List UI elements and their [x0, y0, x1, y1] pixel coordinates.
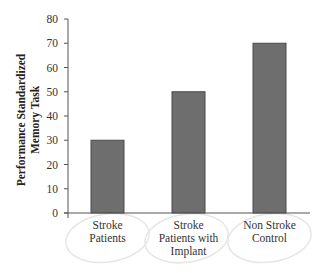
bar-0: [91, 140, 124, 213]
x-category-label: Patients with: [159, 232, 219, 244]
y-tick-label: 50: [47, 86, 59, 98]
x-category-label: Stroke: [92, 219, 122, 231]
y-tick-label: 80: [47, 13, 59, 25]
y-axis-ticks: 01020304050607080: [47, 13, 69, 219]
x-category-label: Stroke: [173, 219, 203, 231]
x-axis-category-labels: StrokePatientsStrokePatients withImplant…: [89, 219, 296, 258]
x-category-label: Non Stroke: [243, 219, 296, 231]
y-tick-label: 20: [47, 159, 59, 171]
y-tick-label: 60: [47, 62, 59, 74]
y-tick-label: 10: [47, 183, 59, 195]
bar-chart: 01020304050607080 StrokePatientsStrokePa…: [0, 0, 336, 273]
bar-1: [172, 92, 205, 213]
y-tick-label: 70: [47, 37, 59, 49]
y-tick-label: 40: [47, 110, 59, 122]
bars: [91, 43, 286, 213]
x-category-label: Implant: [171, 245, 208, 258]
y-tick-label: 30: [47, 134, 59, 146]
x-category-label: Control: [252, 232, 287, 244]
bar-2: [253, 43, 286, 213]
y-tick-label: 0: [52, 207, 58, 219]
x-category-label: Patients: [89, 232, 126, 244]
